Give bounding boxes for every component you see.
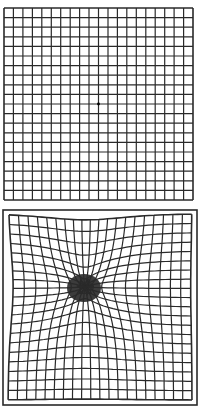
grid-line-horizontal <box>9 346 191 353</box>
grid-line-vertical <box>17 215 24 399</box>
grid-line-vertical <box>27 216 36 400</box>
fixation-dot <box>97 103 100 106</box>
grid-line-vertical <box>82 220 88 399</box>
distorted-grid-graphic <box>0 207 200 414</box>
grid-line-horizontal <box>9 224 191 232</box>
normal-amsler-grid <box>0 0 200 207</box>
distorted-amsler-grid <box>0 207 200 414</box>
grid-line-vertical <box>114 217 128 399</box>
grid-line-vertical <box>149 215 155 399</box>
grid-line-vertical <box>137 216 146 400</box>
grid-line-horizontal <box>10 334 192 344</box>
normal-grid-graphic <box>0 0 200 207</box>
grid-line-horizontal <box>9 358 192 363</box>
grid-line-vertical <box>102 218 119 399</box>
grid-line-horizontal <box>11 242 192 255</box>
grid-line-horizontal <box>8 399 192 400</box>
grid-line-horizontal <box>10 233 191 243</box>
grid-line-horizontal <box>9 214 192 220</box>
